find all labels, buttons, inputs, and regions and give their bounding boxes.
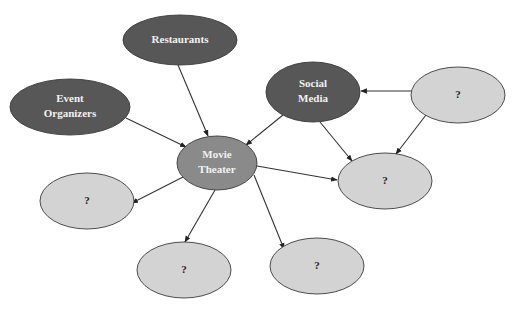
node-label: Media xyxy=(298,92,328,104)
node-unknown-left: ? xyxy=(40,173,134,229)
arrow-social-media-to-unknown-right xyxy=(320,122,352,161)
node-label: Organizers xyxy=(44,107,97,119)
node-label: Event xyxy=(56,92,84,104)
node-label: ? xyxy=(84,194,90,206)
arrow-movie-theater-to-unknown-left xyxy=(132,177,183,203)
node-event-organizers: EventOrganizers xyxy=(10,79,130,135)
concept-map-diagram: RestaurantsEventOrganizersSocialMediaMov… xyxy=(0,0,517,310)
node-label: Restaurants xyxy=(152,33,210,45)
node-unknown-bottom-left: ? xyxy=(137,242,231,298)
arrow-unknown-top-right-to-unknown-right xyxy=(396,115,426,154)
node-label: Movie xyxy=(202,148,231,160)
arrow-movie-theater-to-unknown-right xyxy=(257,166,337,180)
node-label: ? xyxy=(382,174,388,186)
node-movie-theater: MovieTheater xyxy=(177,136,257,190)
node-label: ? xyxy=(455,88,461,100)
node-label: ? xyxy=(181,263,187,275)
node-unknown-bottom-mid: ? xyxy=(270,238,364,294)
node-label: ? xyxy=(314,259,320,271)
node-unknown-top-right: ? xyxy=(411,67,505,123)
node-unknown-right: ? xyxy=(338,153,432,209)
node-label: Theater xyxy=(198,163,235,175)
arrow-movie-theater-to-unknown-bottom-left xyxy=(185,190,215,242)
node-social-media: SocialMedia xyxy=(266,62,360,122)
arrow-restaurants-to-movie-theater xyxy=(178,65,208,136)
nodes-layer: RestaurantsEventOrganizersSocialMediaMov… xyxy=(10,15,505,298)
arrow-movie-theater-to-unknown-bottom-mid xyxy=(254,175,284,249)
node-restaurants: Restaurants xyxy=(123,15,237,65)
arrow-event-organizers-to-movie-theater xyxy=(126,118,186,147)
node-label: Social xyxy=(299,77,327,89)
arrow-social-media-to-movie-theater xyxy=(246,115,283,145)
